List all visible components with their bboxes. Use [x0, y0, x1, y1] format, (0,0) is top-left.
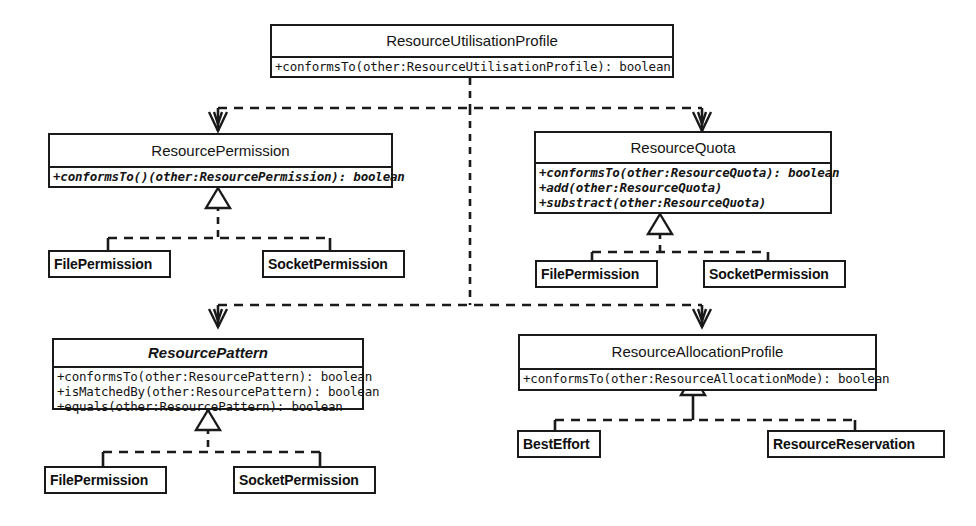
class-title: SocketPermission: [705, 266, 829, 282]
operation: +add(other:ResourceQuota): [539, 180, 828, 195]
operations-compartment: +conformsTo(other:ResourceAllocationMode…: [520, 368, 875, 396]
class-title: ResourceQuota: [536, 133, 830, 162]
operations-compartment: +conformsTo(other:ResourcePattern): bool…: [54, 366, 362, 415]
arrowhead-open-permission-inner: [214, 112, 222, 124]
arrowhead-open-quota-inner: [698, 112, 706, 124]
operation: +substract(other:ResourceQuota): [539, 195, 828, 210]
operation: +conformsTo(other:ResourceUtilisationPro…: [275, 59, 670, 74]
operations-compartment: +conformsTo(other:ResourceUtilisationPro…: [272, 56, 672, 83]
class-title: SocketPermission: [264, 256, 388, 272]
arrowhead-open-pattern-inner: [214, 309, 222, 321]
uml-class-diagram: ResourceUtilisationProfile +conformsTo(o…: [0, 0, 976, 526]
class-title: ResourcePattern: [54, 340, 362, 366]
arrowhead-open-quota: [693, 112, 711, 131]
arrowhead-open-allocation-inner: [698, 309, 706, 321]
class-resource-allocation-profile[interactable]: ResourceAllocationProfile +conformsTo(ot…: [518, 334, 877, 391]
class-title: SocketPermission: [235, 472, 359, 488]
class-title: BestEffort: [519, 436, 590, 452]
operation: +conformsTo(other:ResourceQuota): boolea…: [539, 165, 828, 180]
arrowhead-open-allocation: [693, 309, 711, 327]
operation: +conformsTo(other:ResourceAllocationMode…: [523, 371, 873, 386]
class-resource-permission[interactable]: ResourcePermission +conformsTo()(other:R…: [48, 133, 393, 188]
arrowhead-open-pattern: [209, 309, 227, 327]
operation: +conformsTo(other:ResourcePattern): bool…: [57, 369, 360, 384]
class-resource-utilisation-profile[interactable]: ResourceUtilisationProfile +conformsTo(o…: [270, 24, 674, 78]
class-best-effort[interactable]: BestEffort: [517, 430, 601, 458]
class-title: ResourceAllocationProfile: [520, 336, 875, 368]
operation: +equals(other:ResourcePattern): boolean: [57, 399, 360, 414]
operation: +conformsTo()(other:ResourcePermission):…: [53, 169, 389, 184]
class-file-permission-under-permission[interactable]: FilePermission: [48, 250, 171, 278]
class-resource-quota[interactable]: ResourceQuota +conformsTo(other:Resource…: [534, 131, 832, 214]
class-title: FilePermission: [537, 266, 639, 282]
class-resource-pattern[interactable]: ResourcePattern +conformsTo(other:Resour…: [52, 338, 364, 410]
class-title: ResourcePermission: [50, 135, 391, 166]
arrowhead-open-permission: [209, 112, 227, 131]
class-file-permission-under-pattern[interactable]: FilePermission: [44, 466, 167, 494]
class-file-permission-under-quota[interactable]: FilePermission: [535, 260, 658, 288]
class-title: ResourceReservation: [769, 436, 915, 452]
class-title: FilePermission: [46, 472, 148, 488]
class-title: ResourceUtilisationProfile: [272, 26, 672, 56]
class-resource-reservation[interactable]: ResourceReservation: [767, 430, 945, 458]
operations-compartment: +conformsTo(other:ResourceQuota): boolea…: [536, 162, 830, 217]
operation: +isMatchedBy(other:ResourcePattern): boo…: [57, 384, 360, 399]
operations-compartment: +conformsTo()(other:ResourcePermission):…: [50, 166, 391, 193]
arrowhead-triangle-quota: [648, 214, 672, 234]
class-title: FilePermission: [50, 256, 152, 272]
class-socket-permission-under-quota[interactable]: SocketPermission: [703, 260, 846, 288]
class-socket-permission-under-permission[interactable]: SocketPermission: [262, 250, 405, 278]
class-socket-permission-under-pattern[interactable]: SocketPermission: [233, 466, 376, 494]
